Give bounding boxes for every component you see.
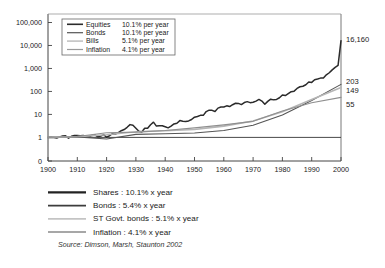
bottom-legend-label: Inflation : 4.1% x year [93,228,171,237]
inner-legend-rate: 10.1% per year [122,21,169,29]
bottom-legend-label: Shares : 10.1% x year [93,188,173,197]
x-tick-label: 1970 [245,165,261,174]
x-tick-label: 1990 [304,165,320,174]
x-tick-label: 1910 [69,165,85,174]
x-tick-label: 1920 [99,165,115,174]
y-tick-label: 100,000 [16,18,42,27]
inner-legend-label: Inflation [86,46,110,53]
x-tick-label: 1960 [216,165,232,174]
y-tick-label: 100 [30,87,42,96]
y-tick-label: 1 [38,133,42,142]
chart-figure: 100,00010,0001,0001001010 19001910192019… [0,0,385,268]
source-note: Source: Dimson, Marsh, Staunton 2002 [58,241,182,249]
end-label-inflation: 55 [346,100,354,109]
y-tick-label: 10 [34,110,42,119]
inner-legend-label: Equities [86,21,111,29]
bottom-legend-label: Bonds : 5.4% x year [93,201,166,210]
x-tick-label: 1930 [128,165,144,174]
end-label-bonds: 203 [346,77,359,86]
chart-background [0,0,385,268]
end-label-bills: 149 [346,86,359,95]
y-tick-label: 10,000 [20,41,42,50]
inner-legend-rate: 4.1% per year [122,46,166,54]
inner-legend-label: Bonds [86,29,106,36]
inner-legend-rate: 5.1% per year [122,37,166,45]
x-tick-label: 1940 [157,165,173,174]
y-tick-label: 1,000 [24,64,42,73]
inner-legend: Equities10.1% per yearBonds10.1% per yea… [62,19,175,55]
inner-legend-label: Bills [86,37,99,44]
end-label-equities: 16,160 [346,35,369,44]
x-tick-label: 1980 [274,165,290,174]
x-tick-label: 1900 [40,165,56,174]
bottom-legend-label: ST Govt. bonds : 5.1% x year [93,214,199,223]
inner-legend-rate: 10.1% per year [122,29,169,37]
x-tick-label: 1950 [187,165,203,174]
x-tick-label: 2000 [333,165,349,174]
growth-of-one-pound-log-chart: 100,00010,0001,0001001010 19001910192019… [0,0,385,268]
